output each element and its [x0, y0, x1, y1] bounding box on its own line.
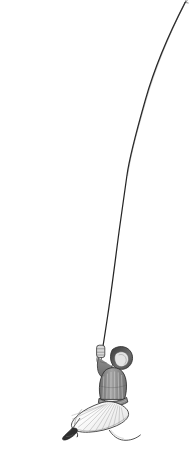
artwork-background — [0, 0, 195, 449]
illustration-card: BEYOND WIDOW — [0, 0, 195, 449]
woman-climbing-rope-illustration — [0, 0, 195, 449]
bodice — [99, 368, 126, 400]
